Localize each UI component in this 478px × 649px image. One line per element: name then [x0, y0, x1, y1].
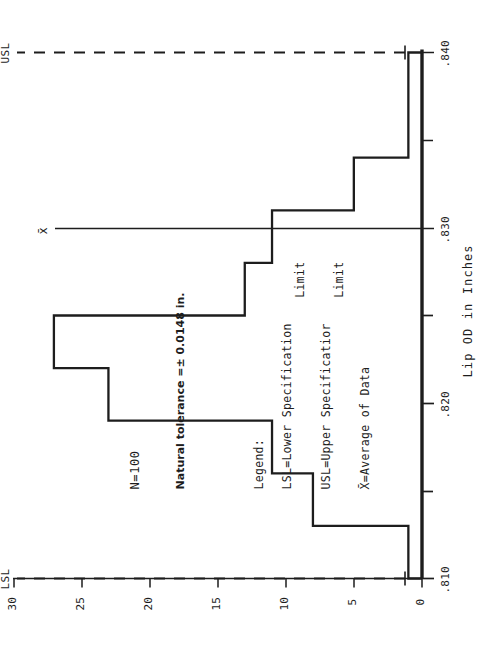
- y-tick-label-30: 30: [7, 596, 20, 610]
- natural-tolerance-note: Natural tolerance =± 0.0148 in.: [175, 292, 188, 489]
- legend-entry-usl: USL=Upper Specificatior Limit: [320, 159, 347, 489]
- lsl-label: LSL: [0, 568, 13, 589]
- y-tick-label-25: 25: [75, 596, 88, 610]
- legend-entry-lsl-line2: Limit: [294, 261, 308, 489]
- legend-entry-xbar: X̄=Average of Data: [359, 159, 373, 489]
- x-tick-label-830: .830: [440, 216, 453, 243]
- legend-entry-xbar-line1: X̄=Average of Data: [359, 159, 373, 489]
- legend-entry-usl-line1: USL=Upper Specificatior: [320, 159, 334, 489]
- y-tick-label-15: 15: [211, 596, 224, 610]
- figure-stage: 0 5 10 15 20 25 30 .810 .820 .830 .840 L…: [0, 0, 478, 649]
- legend-entry-lsl: LSL=Lower Specification Limit: [281, 159, 308, 489]
- y-tick-label-20: 20: [143, 596, 156, 610]
- legend-entry-usl-line2: Limit: [333, 261, 347, 489]
- sample-size-note: N=100: [128, 450, 142, 489]
- x-tick-label-810: .810: [440, 566, 453, 593]
- y-tick-label-10: 10: [279, 596, 292, 610]
- x-tick-label-820: .820: [440, 391, 453, 418]
- x-axis-title: Lip OD in Inches: [461, 244, 475, 377]
- legend-entry-lsl-line1: LSL=Lower Specification: [281, 159, 295, 489]
- xbar-label: x̄: [36, 227, 50, 234]
- histogram-plot: [0, 0, 478, 649]
- y-tick-label-5: 5: [347, 598, 360, 605]
- x-axis: [422, 49, 434, 578]
- legend: Legend: LSL=Lower Specification Limit US…: [253, 159, 372, 489]
- legend-title: Legend:: [253, 159, 267, 489]
- y-tick-label-0: 0: [415, 598, 428, 605]
- usl-label: USL: [0, 42, 13, 63]
- x-tick-label-840: .840: [440, 40, 453, 67]
